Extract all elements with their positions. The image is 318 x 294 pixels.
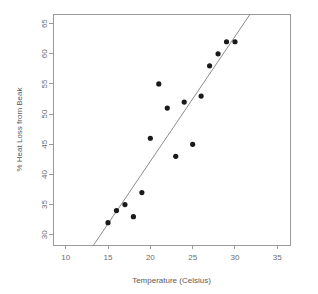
y-tick-label-65: 65 [40, 19, 49, 28]
y-tick-label-45: 45 [40, 139, 49, 148]
data-point [131, 214, 136, 219]
data-points [105, 39, 237, 225]
x-tick-label-10: 10 [61, 253, 70, 262]
x-tick-label-35: 35 [273, 253, 282, 262]
data-point [165, 105, 170, 110]
chart-canvas: 101520253035 3035404550556065 Temperatur… [0, 0, 318, 294]
x-axis: 101520253035 [61, 245, 282, 262]
x-tick-label-25: 25 [188, 253, 197, 262]
y-axis-title: % Heat Loss from Beak [15, 86, 24, 171]
y-tick-label-30: 30 [40, 230, 49, 239]
data-point [182, 99, 187, 104]
y-tick-label-35: 35 [40, 200, 49, 209]
scatter-plot-figure: 101520253035 3035404550556065 Temperatur… [0, 0, 318, 294]
data-point [139, 190, 144, 195]
data-point [122, 202, 127, 207]
y-tick-label-50: 50 [40, 109, 49, 118]
x-tick-label-30: 30 [231, 253, 240, 262]
data-point [199, 93, 204, 98]
x-tick-label-20: 20 [146, 253, 155, 262]
x-tick-label-15: 15 [104, 253, 113, 262]
y-tick-label-60: 60 [40, 49, 49, 58]
y-tick-label-40: 40 [40, 169, 49, 178]
y-axis: 3035404550556065 [40, 19, 53, 240]
data-point [190, 142, 195, 147]
data-point [148, 136, 153, 141]
y-tick-label-55: 55 [40, 79, 49, 88]
data-point [207, 63, 212, 68]
x-axis-title: Temperature (Celsius) [132, 276, 211, 285]
data-point [156, 81, 161, 86]
data-point [224, 39, 229, 44]
data-point [232, 39, 237, 44]
data-point [215, 51, 220, 56]
data-point [105, 220, 110, 225]
data-point [114, 208, 119, 213]
data-point [173, 154, 178, 159]
